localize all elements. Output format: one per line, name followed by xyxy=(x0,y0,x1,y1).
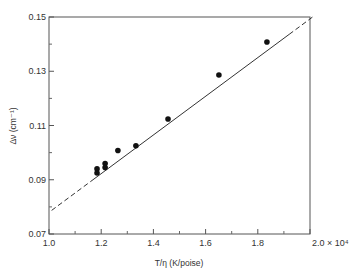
y-tick-label: 0.13 xyxy=(28,66,46,76)
y-tick-label: 0.07 xyxy=(28,229,46,239)
data-point xyxy=(115,148,121,154)
data-points xyxy=(94,39,270,176)
x-tick-label: 1.2 xyxy=(95,238,108,248)
plot-frame xyxy=(49,17,310,234)
x-tick-label: 1.0 xyxy=(43,238,56,248)
x-tick-label: 1.8 xyxy=(252,238,265,248)
data-point xyxy=(264,39,270,45)
plot-border xyxy=(49,17,310,234)
y-tick-label: 0.09 xyxy=(28,175,46,185)
data-point xyxy=(216,72,222,78)
x-tick-label: 1.4 xyxy=(147,238,160,248)
chart: 1.01.21.41.61.82.0 × 10⁴ 0.070.090.110.1… xyxy=(0,0,353,280)
x-tick-label: 1.6 xyxy=(199,238,212,248)
fit-line-dashed-start xyxy=(52,181,91,210)
y-tick-label: 0.15 xyxy=(28,12,46,22)
data-point xyxy=(94,170,100,176)
x-axis-ticks: 1.01.21.41.61.82.0 × 10⁴ xyxy=(43,229,349,248)
y-axis-ticks: 0.070.090.110.130.15 xyxy=(28,12,54,239)
y-axis-label: Δν (cm⁻¹) xyxy=(8,107,18,144)
data-point xyxy=(133,143,139,149)
fit-line-solid xyxy=(91,34,289,181)
data-point xyxy=(102,165,108,171)
data-point xyxy=(165,116,171,122)
x-axis-label: T/η (K/poise) xyxy=(155,258,204,268)
fit-line xyxy=(52,17,313,210)
x-tick-label: 2.0 × 10⁴ xyxy=(312,238,349,248)
y-tick-label: 0.11 xyxy=(29,121,46,131)
fit-line-dashed-end xyxy=(289,17,312,34)
